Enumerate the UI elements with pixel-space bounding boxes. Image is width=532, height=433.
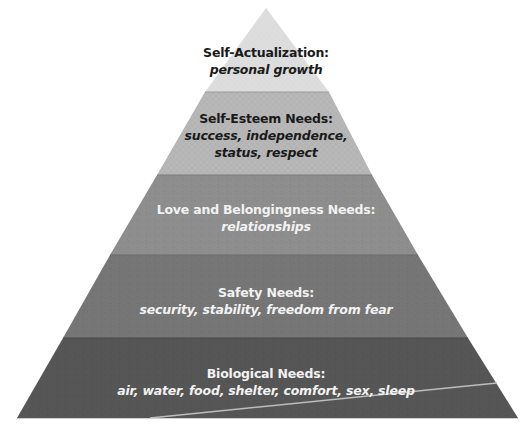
tier-description: success, independence, bbox=[0, 127, 532, 144]
tier-title: Self-Actualization: bbox=[0, 44, 532, 61]
tier-self-esteem-label: Self-Esteem Needs: success, independence… bbox=[0, 110, 532, 161]
tier-love-belonging-label: Love and Belongingness Needs: relationsh… bbox=[0, 201, 532, 235]
tier-description: relationships bbox=[0, 218, 532, 235]
tier-description: personal growth bbox=[0, 61, 532, 78]
tier-safety-label: Safety Needs: security, stability, freed… bbox=[0, 284, 532, 318]
tier-title: Biological Needs: bbox=[0, 365, 532, 382]
tier-description: air, water, food, shelter, comfort, sex,… bbox=[0, 382, 532, 399]
tier-title: Safety Needs: bbox=[0, 284, 532, 301]
tier-description: status, respect bbox=[0, 144, 532, 161]
tier-biological-label: Biological Needs: air, water, food, shel… bbox=[0, 365, 532, 399]
tier-title: Love and Belongingness Needs: bbox=[0, 201, 532, 218]
tier-title: Self-Esteem Needs: bbox=[0, 110, 532, 127]
tier-description: security, stability, freedom from fear bbox=[0, 301, 532, 318]
tier-self-actualization-label: Self-Actualization: personal growth bbox=[0, 44, 532, 78]
